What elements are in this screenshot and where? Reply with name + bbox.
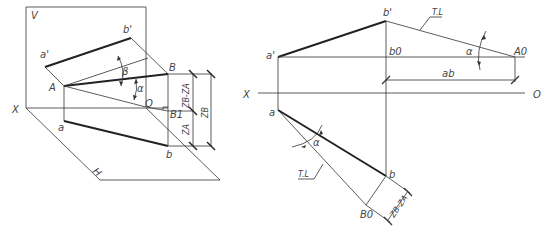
label-A0: A0 <box>513 46 527 57</box>
label-zb-minus-za: ZB-ZA <box>182 83 191 109</box>
label-o-axis: O <box>533 89 541 100</box>
label-B1: B1 <box>170 109 183 120</box>
right-angle-mark <box>163 107 168 110</box>
label-a: a <box>58 122 64 133</box>
label-B: B <box>169 62 176 73</box>
line-a-prime-b-prime-right <box>278 21 386 57</box>
label-alpha: α <box>137 83 144 94</box>
line-ab-right <box>278 110 386 176</box>
label-alpha-top: α <box>466 46 473 57</box>
left-pictorial-figure: V H X a' b' A B O B1 a b β α ZB-ZA ZA ZB <box>11 7 220 180</box>
label-O: O <box>145 98 153 109</box>
label-x-axis: X <box>11 104 20 115</box>
line-ab <box>64 121 168 146</box>
label-za: ZA <box>182 124 191 136</box>
label-b-right: b <box>389 169 395 180</box>
leader-tl-top <box>420 17 442 30</box>
label-A: A <box>48 82 56 93</box>
alpha-arrow-top-b <box>477 61 481 66</box>
label-zb: ZB <box>201 107 210 119</box>
alpha-arrow-bottom-b <box>301 145 306 148</box>
label-b-prime-right: b' <box>383 7 392 18</box>
label-a-prime: a' <box>40 49 49 60</box>
label-x-axis-right: X <box>242 89 251 100</box>
projector-b-prime-B <box>131 38 168 74</box>
alpha-arrow-bottom <box>133 95 137 100</box>
label-beta: β <box>121 66 129 77</box>
label-b0: b0 <box>389 46 402 57</box>
label-ab: ab <box>442 68 454 79</box>
label-B0: B0 <box>360 209 373 220</box>
label-tl-top: T.L <box>432 8 443 17</box>
tick <box>384 217 392 225</box>
label-b: b <box>166 149 172 160</box>
right-orthographic-figure: X O a' b' b0 A0 a b B0 T.L T.L ab α α ZB… <box>242 7 541 225</box>
label-zb-minus-za-right: ZB-ZA <box>388 194 410 220</box>
line-a-prime-b-prime <box>45 38 131 67</box>
label-a-prime-right: a' <box>266 50 275 61</box>
label-alpha-bottom: α <box>313 137 320 148</box>
line-AB <box>64 74 168 86</box>
label-b-prime: b' <box>123 24 132 35</box>
projection-diagram: V H X a' b' A B O B1 a b β α ZB-ZA ZA ZB <box>0 0 546 234</box>
label-h-plane: H <box>91 165 104 178</box>
label-tl-bottom: T.L <box>298 170 309 179</box>
line-true-length-bottom <box>278 110 366 205</box>
line-b-B0 <box>366 176 386 205</box>
line-true-length-top <box>386 21 515 57</box>
label-a-right: a <box>269 107 275 118</box>
label-v-plane: V <box>31 10 39 21</box>
